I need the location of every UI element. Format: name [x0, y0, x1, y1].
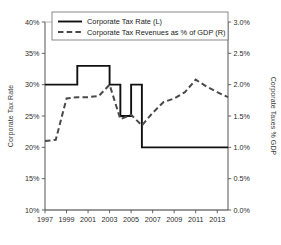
- legend-item-label: Corporate Tax Rate (L): [87, 17, 162, 26]
- left-axis-tick-label: 15%: [25, 174, 40, 183]
- right-axis-tick-label: 1.0%: [234, 143, 251, 152]
- x-axis-tick-label: 1999: [59, 215, 75, 224]
- left-axis-tick-label: 20%: [25, 143, 40, 152]
- right-axis-tick-label: 0.0%: [234, 206, 251, 215]
- x-axis-tick-label: 2011: [188, 215, 203, 224]
- right-axis-tick-label: 2.0%: [234, 80, 251, 89]
- right-axis-tick-label: 0.5%: [234, 174, 251, 183]
- right-axis-title: Corporate Taxes % GDP: [269, 77, 277, 156]
- x-axis-tick-label: 2009: [166, 215, 182, 224]
- dual-axis-line-chart: 10%15%20%25%30%35%40% 0.0%0.5%1.0%1.5%2.…: [0, 0, 281, 245]
- left-axis-title: Corporate Tax Rate: [7, 85, 15, 147]
- left-axis-tick-label: 10%: [25, 206, 40, 215]
- x-axis-tick-label: 2013: [209, 215, 225, 224]
- right-axis-tick-label: 2.5%: [234, 49, 251, 58]
- chart-container: 10%15%20%25%30%35%40% 0.0%0.5%1.0%1.5%2.…: [0, 0, 281, 245]
- left-axis-tick-label: 40%: [25, 18, 40, 27]
- legend-item-label: Corporate Tax Revenues as % of GDP (R): [87, 28, 226, 37]
- left-axis-tick-label: 35%: [25, 49, 40, 58]
- x-axis-tick-label: 2001: [80, 215, 96, 224]
- right-axis-tick-label: 3.0%: [234, 18, 251, 27]
- x-axis-tick-label: 1997: [37, 215, 53, 224]
- legend: Corporate Tax Rate (L)Corporate Tax Reve…: [52, 12, 228, 40]
- x-axis-tick-label: 2005: [123, 215, 139, 224]
- x-axis-tick-label: 2007: [145, 215, 161, 224]
- right-axis-tick-label: 1.5%: [234, 112, 251, 121]
- left-axis-tick-label: 25%: [25, 112, 40, 121]
- x-axis-tick-label: 2003: [102, 215, 118, 224]
- left-axis-tick-label: 30%: [25, 80, 40, 89]
